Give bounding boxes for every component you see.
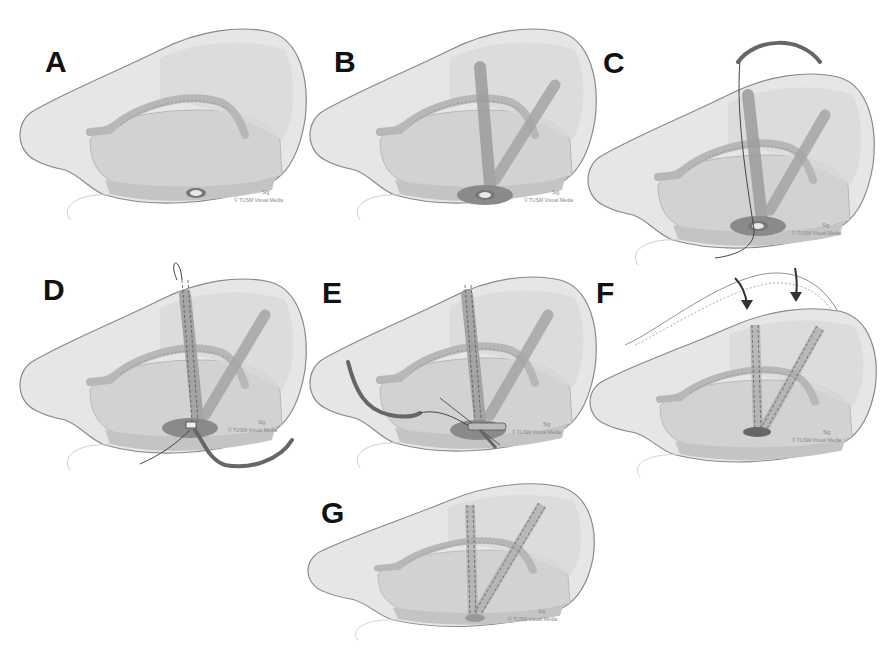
- panel-label: B: [334, 47, 356, 77]
- panel-label: G: [321, 498, 344, 528]
- signature: Sig: [262, 189, 269, 195]
- panel-b: B Sig © TUSM Visual Media: [290, 0, 590, 230]
- panel-label: E: [322, 278, 342, 308]
- credit-text: © TUSM Visual Media: [508, 616, 557, 622]
- panel-a: A Sig © TUSM Visual Media: [0, 0, 300, 230]
- panel-label: C: [603, 48, 625, 78]
- credit-text: © TUSM Visual Media: [524, 197, 573, 203]
- credit-text: © TUSM Visual Media: [234, 197, 283, 203]
- credit-text: © TUSM Visual Media: [792, 437, 841, 443]
- organ-illustration: [580, 240, 882, 480]
- credit-text: © TUSM Visual Media: [228, 427, 277, 433]
- panel-label: D: [43, 275, 65, 305]
- panel-label: A: [45, 47, 67, 77]
- panel-f: F Sig © TUSM Visual Media: [580, 240, 882, 480]
- signature: Sig: [258, 419, 265, 425]
- organ-illustration: [570, 0, 882, 260]
- credit-text: © TUSM Visual Media: [512, 429, 561, 435]
- panel-c: C Sig © TUSM Visual Media: [570, 0, 882, 260]
- signature: Sig: [538, 608, 545, 614]
- panel-e: E Sig © TUSM Visual Media: [290, 240, 590, 480]
- signature: Sig: [822, 222, 829, 228]
- panel-d: D Sig © TUSM Visual Media: [0, 240, 300, 480]
- panel-g: G Sig © TUSM Visual Media: [290, 460, 590, 655]
- organ-illustration: [290, 0, 590, 230]
- panel-label: F: [596, 278, 614, 308]
- signature: Sig: [823, 429, 830, 435]
- organ-illustration: [0, 0, 300, 230]
- signature: Sig: [543, 421, 550, 427]
- credit-text: © TUSM Visual Media: [792, 230, 841, 236]
- organ-illustration: [290, 460, 590, 655]
- signature: Sig: [552, 189, 559, 195]
